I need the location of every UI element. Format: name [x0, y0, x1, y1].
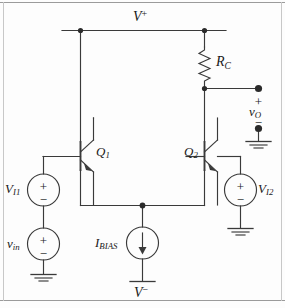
vin-minus-sign: − [36, 247, 51, 260]
node-dot-q1-collector-rail [78, 28, 83, 33]
node-dot-emitter-rail [140, 203, 146, 209]
label-current-source-bias: IBIAS [95, 236, 117, 251]
vi2-minus-sign: − [233, 193, 248, 206]
label-resistor-rc: RC [216, 55, 231, 71]
circuit-figure: V+ RC + vO − Q1 Q2 VI1 + − vin + − VI2 +… [0, 0, 285, 308]
label-supply-positive: V+ [133, 9, 147, 24]
vi1-minus-sign: − [36, 193, 51, 206]
q2-emitter-slant [205, 160, 218, 172]
output-terminal-plus [255, 85, 262, 92]
label-source-vin: vin [7, 237, 20, 252]
label-transistor-q1: Q1 [96, 145, 110, 160]
label-source-vi1: VI1 [5, 182, 20, 197]
node-dot-output-tap [202, 86, 207, 91]
circuit-schematic-svg [0, 0, 285, 308]
q2-collector-slant [205, 140, 218, 152]
q1-collector-slant [81, 140, 94, 152]
label-transistor-q2: Q2 [184, 145, 198, 160]
output-minus-sign: − [251, 116, 266, 129]
label-source-vi2: VI2 [258, 182, 273, 197]
q1-emitter-slant [81, 160, 94, 172]
node-dot-rc-rail [202, 28, 207, 33]
resistor-rc-body [199, 47, 210, 88]
label-supply-negative: V− [134, 285, 148, 300]
ibias-arrow-head [139, 247, 147, 255]
